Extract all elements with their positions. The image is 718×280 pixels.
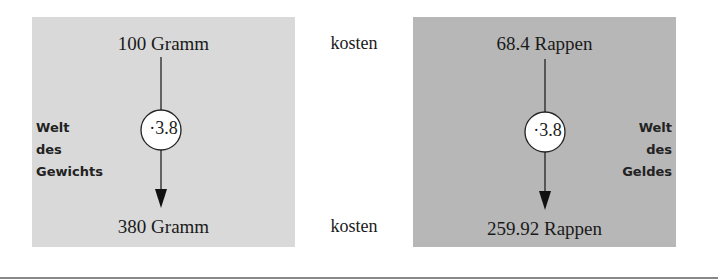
money-world-label: Welt des Geldes <box>622 117 672 183</box>
label-line: Geldes <box>622 161 672 183</box>
kosten-top: kosten <box>294 33 414 54</box>
money-result-value: 259.92 Rappen <box>413 218 676 240</box>
money-world-panel: 68.4 Rappen ·3.8 Welt des Geldes 259.92 … <box>413 17 676 247</box>
label-line: Welt <box>36 117 103 139</box>
weight-world-label: Welt des Gewichts <box>36 117 103 183</box>
arrowhead-down-icon <box>155 189 167 208</box>
bottom-divider <box>0 277 718 279</box>
weight-world-panel: 100 Gramm ·3.8 Welt des Gewichts 380 Gra… <box>32 17 295 247</box>
label-line: des <box>622 139 672 161</box>
label-line: Welt <box>622 117 672 139</box>
label-line: Gewichts <box>36 161 103 183</box>
label-line: des <box>36 139 103 161</box>
arrowhead-down-icon <box>539 191 551 210</box>
weight-result-value: 380 Gramm <box>32 216 295 238</box>
kosten-bottom: kosten <box>294 216 414 237</box>
